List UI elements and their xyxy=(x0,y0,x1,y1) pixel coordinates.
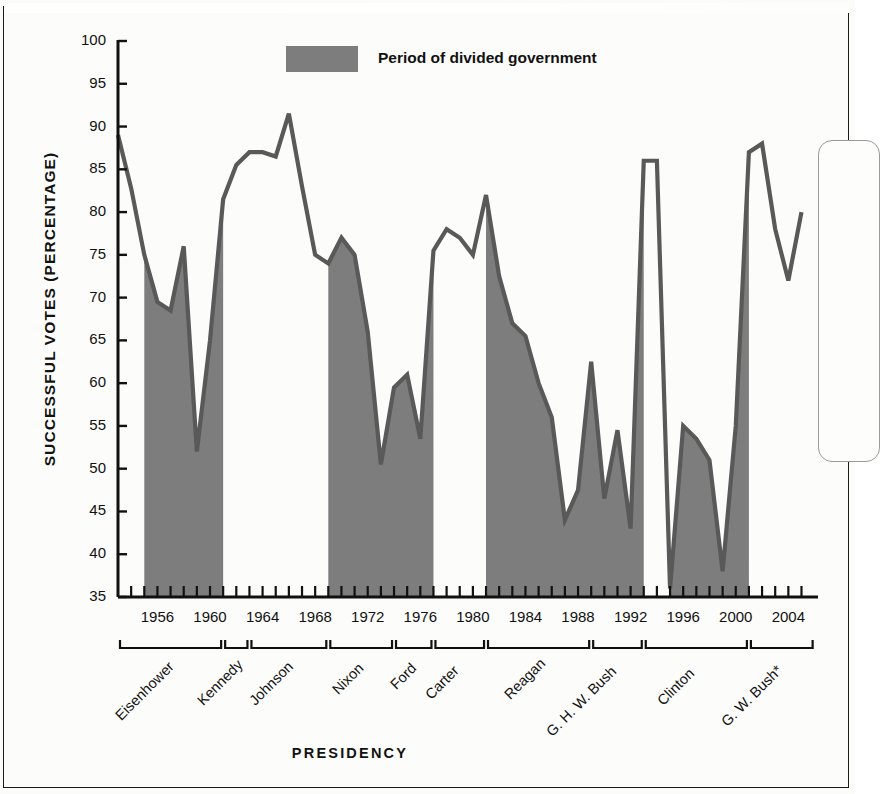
y-axis-tick-label: 50 xyxy=(66,459,106,476)
y-axis-tick-label: 55 xyxy=(66,416,106,433)
presidency-bracket xyxy=(330,640,392,648)
y-axis-tick-label: 85 xyxy=(66,159,106,176)
x-axis-tick-label: 1976 xyxy=(390,608,450,625)
y-axis-tick-label: 40 xyxy=(66,544,106,561)
divided-government-band xyxy=(486,161,644,597)
y-axis-tick-label: 65 xyxy=(66,330,106,347)
y-axis-tick-label: 90 xyxy=(66,117,106,134)
x-axis-tick-label: 1980 xyxy=(443,608,503,625)
x-axis-tick-label: 2000 xyxy=(706,608,766,625)
x-axis-tick-label: 2004 xyxy=(758,608,818,625)
x-axis-tick-label: 1956 xyxy=(127,608,187,625)
y-axis-tick-label: 45 xyxy=(66,501,106,518)
y-axis-tick-label: 100 xyxy=(66,31,106,48)
y-axis-tick-label: 35 xyxy=(66,587,106,604)
x-axis-tick-label: 1992 xyxy=(601,608,661,625)
x-axis-tick-label: 1996 xyxy=(653,608,713,625)
y-axis-tick-label: 95 xyxy=(66,74,106,91)
presidency-bracket xyxy=(120,640,221,648)
x-axis-tick-label: 1972 xyxy=(338,608,398,625)
x-axis-tick-label: 1988 xyxy=(548,608,608,625)
x-axis-tick-label: 1964 xyxy=(233,608,293,625)
presidency-bracket xyxy=(751,640,813,648)
presidency-bracket xyxy=(251,640,326,648)
presidency-bracket xyxy=(225,640,247,648)
presidency-bracket xyxy=(435,640,484,648)
presidency-bracket xyxy=(396,640,431,648)
y-axis-tick-label: 80 xyxy=(66,202,106,219)
presidency-bracket xyxy=(488,640,589,648)
x-axis-tick-label: 1960 xyxy=(180,608,240,625)
presidency-bracket xyxy=(646,640,747,648)
y-axis-tick-label: 75 xyxy=(66,245,106,262)
x-axis-tick-label: 1968 xyxy=(285,608,345,625)
y-axis-tick-label: 60 xyxy=(66,373,106,390)
x-axis-tick-label: 1984 xyxy=(495,608,555,625)
presidency-bracket xyxy=(593,640,642,648)
y-axis-tick-label: 70 xyxy=(66,288,106,305)
